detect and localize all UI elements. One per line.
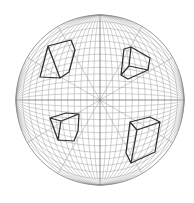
spherical-perspective-drawing [0,0,194,203]
cube-top-right [121,47,150,79]
